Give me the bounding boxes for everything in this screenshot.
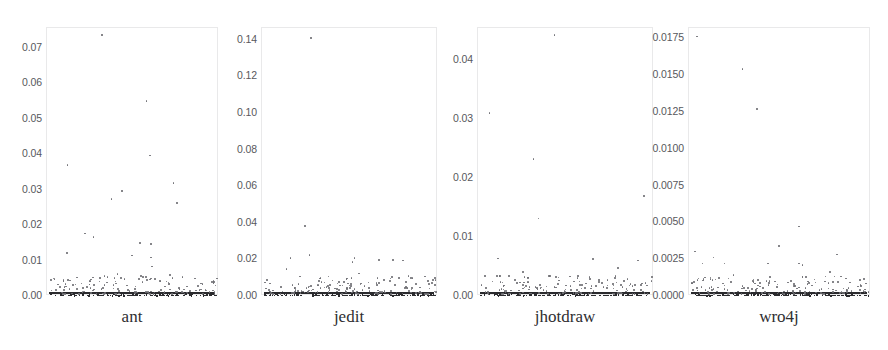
scatter-figure: 0.000.010.020.030.040.050.060.07ant0.000… bbox=[0, 0, 888, 350]
data-point bbox=[770, 295, 772, 297]
data-point bbox=[723, 294, 725, 296]
data-point bbox=[724, 288, 726, 290]
data-point bbox=[828, 282, 830, 284]
data-point bbox=[824, 281, 826, 283]
ytick-label-wro4j-5: 0.0125 bbox=[640, 105, 684, 117]
data-point-outlier bbox=[836, 254, 838, 256]
data-point bbox=[760, 295, 762, 297]
data-point bbox=[712, 279, 714, 281]
data-point bbox=[724, 285, 726, 287]
data-point bbox=[794, 295, 796, 297]
data-point bbox=[851, 295, 853, 297]
data-point bbox=[728, 278, 730, 280]
data-point bbox=[800, 294, 802, 296]
data-point bbox=[830, 295, 832, 297]
data-point bbox=[790, 294, 792, 296]
data-point-outlier bbox=[696, 36, 698, 38]
data-point bbox=[816, 294, 818, 296]
data-point bbox=[715, 279, 717, 281]
data-point bbox=[819, 289, 821, 291]
data-point bbox=[741, 288, 743, 290]
data-point-outlier bbox=[733, 274, 735, 276]
data-point bbox=[808, 282, 810, 284]
data-point bbox=[833, 295, 835, 297]
data-point bbox=[863, 278, 865, 280]
data-point-outlier bbox=[742, 68, 744, 70]
data-point bbox=[762, 287, 764, 289]
data-point bbox=[769, 276, 771, 278]
data-point bbox=[787, 282, 789, 284]
data-point-outlier bbox=[756, 108, 758, 110]
data-point bbox=[849, 282, 851, 284]
data-point bbox=[702, 280, 704, 282]
data-point bbox=[774, 281, 776, 283]
data-point-outlier bbox=[724, 263, 726, 265]
data-point-outlier bbox=[718, 277, 720, 279]
data-point bbox=[859, 289, 861, 291]
data-point bbox=[842, 295, 844, 297]
data-point bbox=[704, 295, 706, 297]
ytick-label-wro4j-4: 0.0100 bbox=[640, 142, 684, 154]
plot-area-wro4j bbox=[688, 27, 870, 295]
data-point bbox=[696, 295, 698, 297]
data-point bbox=[711, 289, 713, 291]
data-point bbox=[839, 295, 841, 297]
data-point bbox=[734, 295, 736, 297]
data-point bbox=[708, 293, 710, 295]
data-point bbox=[857, 286, 859, 288]
data-point bbox=[697, 279, 699, 281]
data-point bbox=[842, 292, 844, 294]
data-point bbox=[729, 295, 731, 297]
data-point bbox=[777, 284, 779, 286]
data-point bbox=[757, 279, 759, 281]
ytick-label-wro4j-7: 0.0175 bbox=[640, 31, 684, 43]
data-point bbox=[759, 286, 761, 288]
data-point bbox=[703, 278, 705, 280]
data-point bbox=[710, 295, 712, 297]
data-point bbox=[840, 276, 842, 278]
data-point-outlier bbox=[702, 263, 704, 265]
data-point bbox=[860, 292, 862, 294]
data-point bbox=[733, 293, 735, 295]
data-point-outlier bbox=[694, 251, 696, 253]
data-point bbox=[737, 295, 739, 297]
data-point bbox=[698, 278, 700, 280]
data-point bbox=[822, 295, 824, 297]
data-point bbox=[766, 280, 768, 282]
data-point bbox=[700, 295, 702, 297]
data-point-outlier bbox=[815, 282, 817, 284]
data-point bbox=[751, 294, 753, 296]
data-point bbox=[704, 277, 706, 279]
ytick-label-wro4j-2: 0.0050 bbox=[640, 215, 684, 227]
data-point bbox=[781, 295, 783, 297]
data-point bbox=[848, 287, 850, 289]
data-point bbox=[859, 295, 861, 297]
data-point bbox=[746, 295, 748, 297]
data-point bbox=[835, 290, 837, 292]
data-point bbox=[832, 281, 834, 283]
data-point bbox=[799, 290, 801, 292]
data-point bbox=[761, 292, 763, 294]
data-point bbox=[865, 283, 867, 285]
data-point bbox=[766, 294, 768, 296]
data-point bbox=[759, 282, 761, 284]
data-point bbox=[793, 295, 795, 297]
data-point bbox=[754, 294, 756, 296]
data-point bbox=[814, 279, 816, 281]
data-point bbox=[805, 287, 807, 289]
data-point bbox=[751, 288, 753, 290]
data-point bbox=[696, 287, 698, 289]
data-point bbox=[794, 285, 796, 287]
data-point bbox=[846, 291, 848, 293]
data-point bbox=[719, 295, 721, 297]
data-point bbox=[743, 287, 745, 289]
data-point bbox=[828, 288, 830, 290]
data-point bbox=[762, 295, 764, 297]
data-point bbox=[868, 291, 870, 293]
data-point-outlier bbox=[778, 245, 780, 247]
data-point bbox=[848, 295, 850, 297]
data-point bbox=[843, 288, 845, 290]
data-point bbox=[727, 289, 729, 291]
data-point bbox=[826, 295, 828, 297]
data-point bbox=[811, 294, 813, 296]
